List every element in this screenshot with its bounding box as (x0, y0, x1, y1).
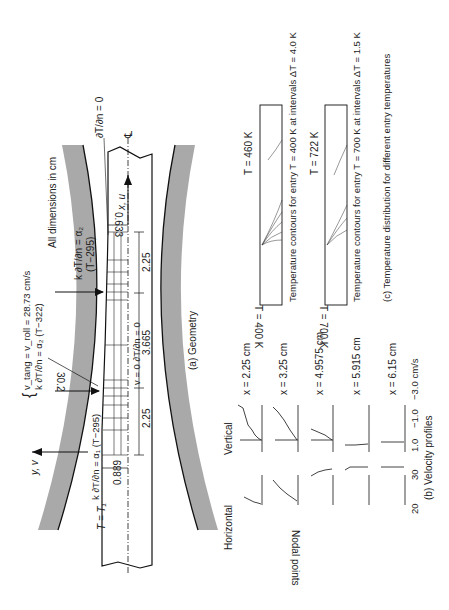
roll-exit-bc-sub: (T−295) (85, 237, 96, 272)
panel-geometry: ∂T/∂n = 0 ℄ x, u 0.633 All dimensions in… (20, 96, 218, 575)
contours-400K (262, 140, 282, 245)
profile-row-2 (273, 405, 298, 505)
profile-row-1 (238, 405, 262, 505)
dim-seg3: 2.25 (141, 408, 152, 428)
dim-seg1: 2.25 (141, 252, 152, 272)
horizontal-column-label: Horizontal (223, 505, 234, 550)
neutral-bc-line2: k ∂T/∂n = α₂ (T−322) (33, 303, 44, 390)
figure-canvas: ∂T/∂n = 0 ℄ x, u 0.633 All dimensions in… (0, 0, 449, 610)
y-arrowhead (32, 448, 42, 456)
x-arrowhead (124, 175, 132, 185)
entry-roll-bc: k ∂T/∂n = α₁ (T−295) (90, 414, 101, 500)
centerline-label: ℄ (122, 131, 134, 139)
contour-plot-400K (260, 105, 282, 305)
entry-bc: T = T₁ (96, 503, 107, 530)
strip-outline (102, 147, 152, 568)
dim-entry-half: 0.889 (112, 460, 123, 485)
panel-temperature: T = 460 K T = 400 K Temperature contours… (243, 31, 392, 348)
x-axis-label: x, u (116, 193, 127, 211)
velocity-caption: (b) Velocity profiles (423, 416, 434, 500)
brace: { (20, 392, 37, 398)
contour-plot-700K (325, 105, 347, 305)
nodal-points-label: Nodal points (290, 530, 301, 586)
dim-exit-half: 0.633 (113, 212, 124, 237)
dimensions-note: All dimensions in cm (47, 157, 58, 248)
row-label-2: x = 3.25 cm (278, 343, 289, 395)
row-label-5: x = 6.15 cm (387, 343, 398, 395)
exit-bc-label: ∂T/∂n = 0 (94, 96, 105, 138)
tick-1p0: 1.0 (409, 439, 420, 452)
vertical-column-label: Vertical (223, 422, 234, 455)
temperature-caption: (c) Temperature distribution for differe… (381, 53, 392, 302)
peak-temp-400: T = 460 K (243, 131, 254, 175)
panel-velocity-profiles: Vertical Horizontal Nodal points x = 2.2… (223, 332, 434, 586)
neutral-arrowhead (95, 288, 104, 296)
peak-temp-700: T = 722 K (309, 131, 320, 175)
tick-30: 30 (409, 469, 420, 480)
entry-temp-400: T = 400 K (253, 305, 264, 349)
angle-arrowhead (91, 387, 100, 395)
row-label-4: x = 5.915 cm (351, 337, 362, 395)
geometry-caption: (a) Geometry (187, 311, 198, 370)
neutral-bc-line1: v_tang = v_roll = 28.73 cm/s (21, 270, 32, 390)
mesh (102, 232, 128, 455)
y-axis-label: y, v (29, 459, 40, 476)
dim-seg2: 3.665 (141, 330, 152, 355)
tick-20: 20 (409, 503, 420, 514)
profile-row-5 (381, 405, 405, 505)
profile-row-4 (345, 405, 369, 505)
row-label-1: x = 2.25 cm (241, 343, 252, 395)
tick-neg1p0: −1.0 (409, 409, 420, 428)
angle-label: 30.2 (55, 372, 66, 392)
tick-neg3p0: −3.0 cm/s (409, 358, 420, 400)
caption-400: Temperature contours for entry T = 400 K… (287, 31, 298, 302)
roll-exit-bc: k ∂T/∂n = α₂ (73, 227, 84, 280)
contours-700K (327, 145, 347, 245)
entry-temp-700: T = 700 K (318, 305, 329, 349)
profile-row-3 (311, 405, 333, 505)
exit-bc-leader (104, 138, 108, 235)
caption-700: Temperature contours for entry T = 700 K… (351, 31, 362, 302)
